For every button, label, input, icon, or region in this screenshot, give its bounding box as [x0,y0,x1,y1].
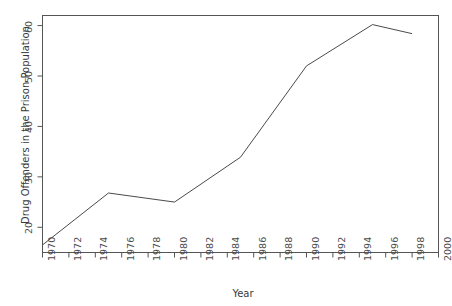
x-tick-label: 1976 [126,236,136,260]
chart-figure: 1970197219741976197819801982198419861988… [0,0,452,306]
x-tick-label: 1972 [73,236,83,260]
plot-frame [43,16,439,253]
x-tick-label: 1970 [47,236,57,260]
y-axis-title: Drug Offenders in the Prison Population [20,0,31,255]
x-tick-label: 1988 [284,236,294,260]
x-axis-title: Year [0,288,452,299]
x-tick-label: 1980 [179,236,189,260]
plot-area [0,0,452,306]
x-tick-label: 1986 [258,236,268,260]
x-tick-label: 1974 [99,236,109,260]
x-tick-label: 1978 [152,236,162,260]
x-tick-label: 1982 [205,236,215,260]
x-tick-label: 1994 [363,236,373,260]
x-tick-label: 1998 [416,236,426,260]
x-tick-label: 1990 [311,236,321,260]
x-tick-label: 2000 [443,236,452,260]
data-series-line [43,25,413,245]
y-axis-tick-marks [38,26,43,228]
x-tick-label: 1996 [390,236,400,260]
x-tick-label: 1992 [337,236,347,260]
x-tick-label: 1984 [231,236,241,260]
